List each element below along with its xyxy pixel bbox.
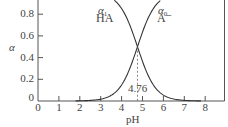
- y-tick-label: 0.8: [4, 8, 34, 19]
- x-tick-label: 4: [115, 102, 129, 113]
- x-tick-label: 1: [52, 102, 66, 113]
- y-tick-label: 0.4: [4, 52, 34, 63]
- x-tick-label: 5: [136, 102, 150, 113]
- y-axis-label: α: [9, 42, 15, 53]
- pka-annotation: 4.76: [128, 83, 147, 94]
- y-tick-label: 0.6: [4, 30, 34, 41]
- x-axis-label: pH: [126, 114, 139, 125]
- x-tick-label: 2: [73, 102, 87, 113]
- x-tick-label: 7: [177, 102, 191, 113]
- y-ticks: [38, 14, 43, 79]
- y-tick-label: 0: [4, 92, 34, 103]
- x-tick-label: 6: [156, 102, 170, 113]
- y-tick-label: 0.2: [4, 73, 34, 84]
- a-species-label: A⁻: [157, 12, 172, 24]
- x-tick-label: 3: [94, 102, 108, 113]
- x-tick-label: 8: [198, 102, 212, 113]
- ha-species-label: HA: [96, 12, 113, 24]
- x-tick-label: 0: [31, 102, 45, 113]
- a-minus-curve: [76, 1, 161, 101]
